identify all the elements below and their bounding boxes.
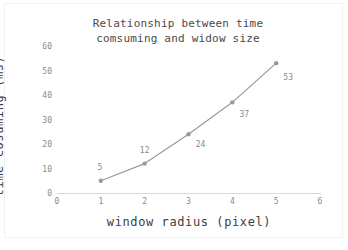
data-point-marker [142, 161, 146, 165]
data-point-label: 24 [196, 140, 206, 149]
data-point-label: 5 [97, 162, 102, 171]
x-axis-title: window radius (pixel) [57, 215, 321, 229]
x-tick-label: 1 [98, 197, 103, 206]
y-tick-label: 50 [42, 66, 52, 75]
data-point-marker [274, 61, 278, 65]
x-axis-line [57, 193, 321, 194]
series-polyline [101, 63, 276, 181]
chart-figure: Relationship between time comsuming and … [0, 0, 348, 250]
data-point-marker [186, 132, 190, 136]
x-tick-label: 3 [186, 197, 191, 206]
x-tick-label: 0 [55, 197, 60, 206]
data-point-label: 37 [240, 110, 250, 119]
x-tick-label: 5 [274, 197, 279, 206]
y-tick-label: 10 [42, 164, 52, 173]
x-tick-label: 6 [318, 197, 323, 206]
y-tick-label: 30 [42, 115, 52, 124]
data-point-marker [230, 100, 234, 104]
data-point-label: 53 [283, 73, 293, 82]
data-point-marker [99, 179, 103, 183]
y-tick-label: 60 [42, 42, 52, 51]
x-tick-label: 4 [230, 197, 235, 206]
chart-title: Relationship between time comsuming and … [60, 16, 296, 46]
x-tick-label: 2 [142, 197, 147, 206]
y-axis-title: time cosuming (ms) [0, 46, 8, 206]
data-point-label: 12 [140, 145, 150, 154]
y-tick-label: 0 [47, 189, 52, 198]
series-markers [99, 61, 279, 183]
y-tick-label: 20 [42, 140, 52, 149]
plot-area: 01020304050600123456512243753 [57, 46, 320, 193]
y-tick-label: 40 [42, 91, 52, 100]
